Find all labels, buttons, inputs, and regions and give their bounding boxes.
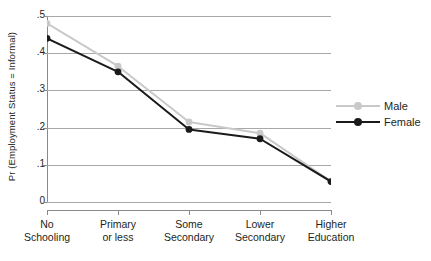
legend-key-swatch	[336, 115, 380, 129]
x-tick-label: HigherEducation	[288, 218, 374, 244]
x-tick-label-line: Education	[288, 231, 374, 244]
gridline	[47, 202, 331, 203]
x-tick-mark	[118, 210, 119, 215]
series-line-female	[47, 38, 331, 181]
x-axis-tick-labels: NoSchoolingPrimaryor lessSomeSecondaryLo…	[47, 218, 331, 258]
legend-item-female[interactable]: Female	[336, 114, 431, 130]
y-tick-label: .2	[23, 122, 45, 132]
y-tick-label: .4	[23, 47, 45, 57]
legend-label: Female	[380, 116, 421, 128]
data-point-male	[186, 119, 193, 126]
y-axis-tick-labels: 0.1.2.3.4.5	[20, 0, 45, 212]
data-point-female	[257, 135, 264, 142]
legend-marker-dot	[354, 102, 362, 110]
x-tick-mark	[47, 210, 48, 215]
legend-label: Male	[380, 100, 408, 112]
data-point-female	[186, 126, 193, 133]
x-tick-mark	[189, 210, 190, 215]
y-axis-title-text: Pr (Employment Status = Informal)	[7, 31, 18, 180]
data-series-layer	[47, 16, 331, 202]
y-tick-label: .5	[23, 10, 45, 20]
y-tick-mark	[43, 202, 47, 203]
legend: MaleFemale	[336, 98, 431, 134]
series-line-male	[47, 23, 331, 181]
legend-item-male[interactable]: Male	[336, 98, 431, 114]
data-point-female	[115, 68, 122, 75]
legend-marker-dot	[354, 118, 362, 126]
x-tick-mark	[260, 210, 261, 215]
legend-key-swatch	[336, 99, 380, 113]
y-tick-label: .3	[23, 84, 45, 94]
plot-area	[47, 16, 331, 202]
chart-figure: Pr (Employment Status = Informal) 0.1.2.…	[0, 0, 431, 261]
y-tick-label: .1	[23, 159, 45, 169]
x-tick-label-line: Higher	[288, 218, 374, 231]
y-tick-label: 0	[23, 196, 45, 206]
x-tick-mark	[331, 210, 332, 215]
